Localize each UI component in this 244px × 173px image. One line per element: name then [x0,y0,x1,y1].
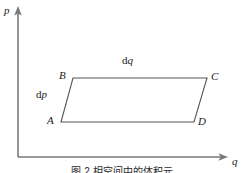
vertex-label-b: B [59,70,66,81]
phase-space-figure: p q A B C D dq dp 图 2 相空间中的体积元 [0,0,244,173]
diagram-canvas [0,0,244,173]
figure-caption: 图 2 相空间中的体积元 [0,166,244,173]
vertex-label-c: C [211,71,218,82]
parallelogram-abcd [61,78,207,122]
dq-variable: q [128,54,134,66]
vertex-label-d: D [198,116,206,127]
dq-label: dq [122,55,133,66]
dp-variable: p [42,88,48,100]
vertex-label-a: A [47,115,54,126]
p-axis-label: p [4,5,10,16]
dp-label: dp [36,89,47,100]
